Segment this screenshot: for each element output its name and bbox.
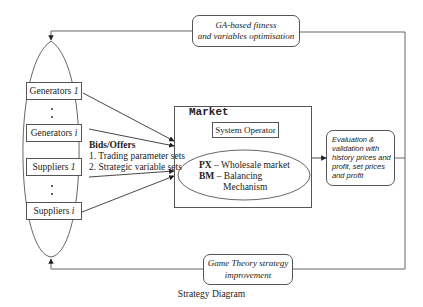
generators-1-label: Generators bbox=[30, 86, 72, 96]
px-line: PX – Wholesale market bbox=[199, 160, 290, 171]
ellipsis-dot bbox=[51, 108, 53, 110]
generators-1-index: 1 bbox=[74, 86, 79, 96]
generators-1-box: Generators 1 bbox=[26, 82, 82, 100]
diagram-caption: Strategy Diagram bbox=[0, 289, 423, 300]
generators-i-box: Generators i bbox=[26, 124, 82, 142]
game-theory-line-1: Game Theory strategy bbox=[208, 258, 289, 269]
bm-desc-line2: Mechanism bbox=[223, 182, 267, 193]
ga-optimisation-box: GA-based fitness and variables optimisat… bbox=[192, 15, 300, 47]
eval-line-2: validation with bbox=[332, 144, 391, 153]
ga-line-1: GA-based fitness bbox=[215, 20, 276, 31]
system-operator-label: System Operator bbox=[215, 125, 276, 135]
generators-i-label: Generators bbox=[31, 128, 73, 138]
ga-feedback-line bbox=[51, 31, 192, 40]
eval-line-4: profit, set prices bbox=[332, 162, 391, 171]
generators-i-index: i bbox=[75, 128, 78, 138]
market-title: Market bbox=[189, 106, 229, 119]
px-desc: – Wholesale market bbox=[214, 160, 290, 170]
eval-line-3: history prices and bbox=[332, 153, 391, 162]
bids-item-strategic: 2. Strategic variable sets bbox=[89, 162, 182, 173]
ga-line-2: and variables optimisation bbox=[198, 31, 295, 42]
eval-line-1: Evaluation & bbox=[332, 135, 391, 144]
suppliers-1-box: Suppliers 1 bbox=[26, 158, 82, 176]
px-abbr: PX bbox=[199, 160, 212, 170]
system-operator-box: System Operator bbox=[212, 122, 279, 138]
suppliers-i-label: Suppliers bbox=[34, 206, 70, 216]
game-theory-line-2: improvement bbox=[225, 270, 272, 281]
bm-line: BM – Balancing bbox=[199, 171, 262, 182]
suppliers-1-label: Suppliers bbox=[32, 162, 68, 172]
eval-line-5: and profit bbox=[332, 171, 391, 180]
ellipsis-dot bbox=[51, 185, 53, 187]
evaluation-box: Evaluation & validation with history pri… bbox=[326, 130, 395, 186]
suppliers-i-index: i bbox=[72, 206, 75, 216]
participants-ellipse bbox=[23, 41, 79, 257]
ellipsis-dot bbox=[51, 193, 53, 195]
ellipsis-dot bbox=[51, 116, 53, 118]
game-theory-box: Game Theory strategy improvement bbox=[203, 254, 293, 285]
bids-offers-title: Bids/Offers bbox=[89, 140, 135, 151]
bm-abbr: BM bbox=[199, 171, 214, 181]
bids-item-trading: 1. Trading parameter sets bbox=[89, 151, 185, 162]
arrow-generators-1 bbox=[83, 93, 174, 141]
arrow-suppliers-i bbox=[82, 176, 174, 212]
bm-desc: – Balancing bbox=[217, 171, 263, 181]
game-theory-feedback-line bbox=[51, 259, 203, 269]
suppliers-i-box: Suppliers i bbox=[26, 202, 82, 220]
suppliers-1-index: 1 bbox=[71, 162, 76, 172]
